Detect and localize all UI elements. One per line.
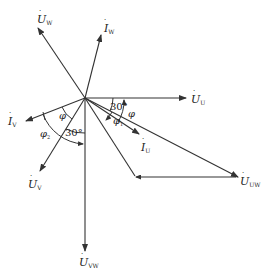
label-I-V: IV · [7, 109, 17, 128]
label-U-V: UV · [28, 172, 42, 191]
label-U-U: UU · [191, 87, 205, 106]
svg-text:·: · [104, 16, 106, 24]
phasor-U-UW [85, 98, 238, 177]
label-I-W: IW · [103, 16, 115, 35]
svg-text:·: · [30, 172, 32, 180]
svg-text:φ2: φ2 [40, 128, 50, 140]
angle-30-right: 30° [110, 101, 128, 112]
phasor-diagram: UW · IW · UU · IV · UV · UVW · IU · UUW … [0, 0, 264, 276]
angle-30-left: 30° [65, 127, 83, 138]
angle-phi-right: φ [128, 108, 135, 119]
angle-phi-left: φ [59, 110, 66, 121]
svg-text:·: · [81, 250, 83, 258]
phasor-I-V [26, 98, 85, 121]
svg-text:·: · [39, 7, 41, 15]
phasor-I-W [85, 35, 101, 98]
label-U-W: UW · [37, 7, 53, 26]
phasor-U-W [38, 28, 85, 98]
label-U-VW: UVW · [79, 250, 100, 269]
label-U-UW: UUW · [240, 169, 261, 188]
svg-text:·: · [142, 135, 144, 143]
svg-text:·: · [9, 109, 11, 117]
svg-text:·: · [193, 87, 195, 95]
svg-text:·: · [242, 169, 244, 177]
label-I-U: IU · [140, 135, 150, 154]
angle-phi2: φ2 [40, 128, 50, 140]
